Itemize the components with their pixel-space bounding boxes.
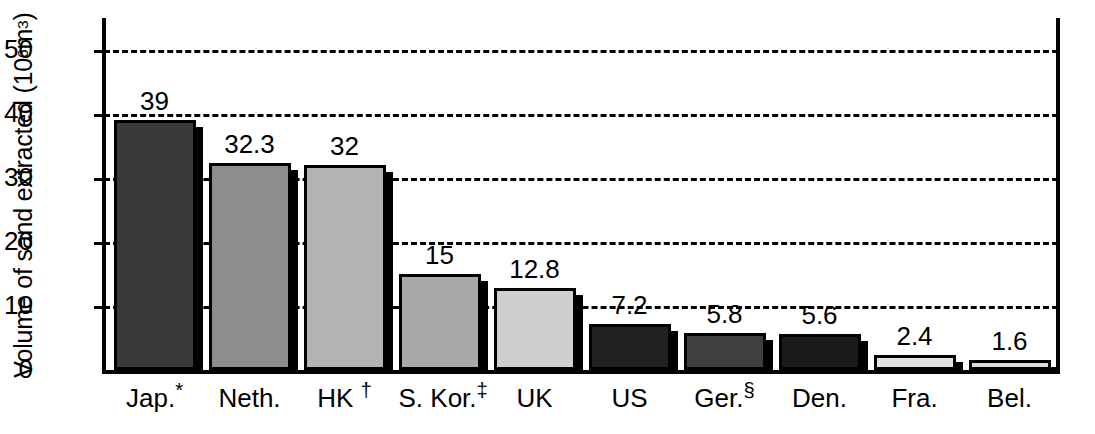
- x-tick-label-footnote-marker: *: [175, 379, 183, 401]
- bar-value-label: 32.3: [209, 129, 291, 160]
- x-tick-label: Fra.: [874, 383, 956, 414]
- y-tick-label-50: 50: [0, 34, 33, 65]
- plot-area: 3932.3321512.87.25.85.62.41.6: [102, 18, 1060, 373]
- bar-skor[interactable]: [399, 274, 481, 370]
- x-tick-label: HK †: [304, 383, 386, 414]
- x-tick-label: Bel.: [969, 383, 1051, 414]
- x-tick-label-text: Fra.: [891, 383, 937, 413]
- bar-ger[interactable]: [684, 333, 766, 370]
- bar-value-label: 5.8: [684, 299, 766, 330]
- y-tick-label-40: 40: [0, 98, 33, 129]
- x-tick-label-footnote-marker: †: [361, 379, 372, 401]
- x-tick-label-text: Bel.: [987, 383, 1032, 413]
- bar-fra[interactable]: [874, 355, 956, 370]
- bar-uk[interactable]: [494, 288, 576, 370]
- bar-den[interactable]: [779, 334, 861, 370]
- bar-neth[interactable]: [209, 163, 291, 370]
- y-tick-label-10: 10: [0, 290, 33, 321]
- bar-chart-figure: Volume of sand extracted (106 m3) 010203…: [0, 0, 1095, 434]
- x-tick-label: US: [589, 383, 671, 414]
- bar-value-label: 12.8: [494, 254, 576, 285]
- x-tick-label: S. Kor.‡: [399, 383, 481, 414]
- bar-value-label: 1.6: [969, 326, 1051, 357]
- x-tick-label-text: UK: [516, 383, 552, 413]
- bar-value-label: 2.4: [874, 321, 956, 352]
- x-tick-label-footnote-marker: ‡: [477, 379, 488, 401]
- x-tick-label-text: S. Kor.: [399, 383, 477, 413]
- y-axis-line: [102, 18, 106, 373]
- bar-value-label: 7.2: [589, 290, 671, 321]
- x-tick-label: Jap.*: [114, 383, 196, 414]
- bar-value-label: 15: [399, 240, 481, 271]
- x-tick-label: UK: [494, 383, 576, 414]
- y-tick-label-30: 30: [0, 162, 33, 193]
- y-axis-title-close-paren: ): [9, 12, 38, 20]
- x-tick-label: Neth.: [209, 383, 291, 414]
- x-tick-label-footnote-marker: §: [743, 379, 754, 401]
- y-tick-label-0: 0: [0, 354, 33, 385]
- bar-value-label: 5.6: [779, 300, 861, 331]
- x-axis-line: [102, 370, 1060, 374]
- plot-right-border: [1056, 18, 1060, 374]
- gridline-50: [104, 50, 1058, 53]
- x-tick-label: Ger.§: [684, 383, 766, 414]
- x-tick-label-text: Jap.: [126, 383, 175, 413]
- x-tick-label-text: US: [611, 383, 647, 413]
- bar-value-label: 39: [114, 86, 196, 117]
- bar-value-label: 32: [304, 131, 386, 162]
- x-tick-label: Den.: [779, 383, 861, 414]
- bar-bel[interactable]: [969, 360, 1051, 370]
- x-tick-label-text: Neth.: [218, 383, 280, 413]
- x-tick-label-text: Ger.: [694, 383, 743, 413]
- gridline-40: [104, 114, 1058, 117]
- x-tick-label-text: Den.: [792, 383, 847, 413]
- bar-hk[interactable]: [304, 165, 386, 370]
- bar-jap[interactable]: [114, 120, 196, 370]
- x-tick-label-text: HK: [317, 383, 360, 413]
- y-tick-label-20: 20: [0, 226, 33, 257]
- bar-us[interactable]: [589, 324, 671, 370]
